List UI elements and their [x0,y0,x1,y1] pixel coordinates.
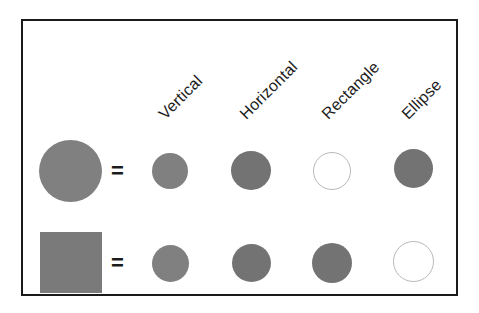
row-2-equals-sign: = [111,252,124,274]
row-1-cell-vertical-circle [152,153,188,189]
row-2-reference-square [40,232,102,293]
column-header-vertical: Vertical [155,72,206,123]
column-header-rectangle: Rectangle [318,58,383,123]
row-2-cell-rectangle-circle [312,243,352,283]
row-1-cell-horizontal-circle [231,151,271,190]
column-header-horizontal: Horizontal [236,58,301,123]
column-header-ellipse: Ellipse [398,76,445,123]
row-1-reference-circle [39,140,102,202]
row-1-cell-ellipse-circle [394,149,433,188]
row-1-equals-sign: = [111,160,124,182]
row-2-cell-horizontal-circle [232,244,271,282]
figure-panel: Vertical Horizontal Rectangle Ellipse = … [0,0,479,313]
row-2-cell-ellipse-circle-outline [393,241,434,282]
row-2-cell-vertical-circle [152,245,189,282]
row-1-cell-rectangle-circle-outline [313,152,351,190]
figure-frame: Vertical Horizontal Rectangle Ellipse = … [21,19,458,296]
